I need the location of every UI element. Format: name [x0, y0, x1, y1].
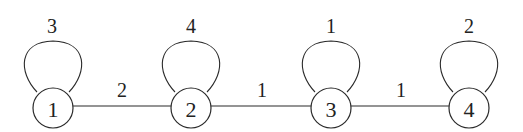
- self-loop-node-1: [24, 41, 81, 92]
- node-label-3: 3: [326, 97, 337, 122]
- node-3: 3: [311, 88, 351, 128]
- edge-labels: 2 1 1: [117, 79, 406, 101]
- edge-weight-3-4: 1: [396, 79, 406, 101]
- self-loop-node-3: [302, 41, 359, 92]
- edge-weight-1-2: 2: [117, 79, 127, 101]
- loop-labels: 3 4 1 2: [47, 15, 474, 37]
- self-loop-node-2: [162, 41, 219, 92]
- self-loop-node-4: [440, 41, 497, 92]
- node-1: 1: [33, 88, 73, 128]
- node-label-2: 2: [186, 97, 197, 122]
- loop-weight-node-3: 1: [326, 15, 336, 37]
- graph-diagram: 2 1 1 3 4 1 2 1 2 3 4: [0, 0, 523, 132]
- node-label-4: 4: [464, 97, 475, 122]
- loop-weight-node-4: 2: [464, 15, 474, 37]
- edge-weight-2-3: 1: [257, 79, 267, 101]
- loop-weight-node-2: 4: [186, 15, 196, 37]
- node-label-1: 1: [48, 97, 59, 122]
- loop-weight-node-1: 3: [47, 15, 57, 37]
- node-4: 4: [449, 88, 489, 128]
- node-2: 2: [171, 88, 211, 128]
